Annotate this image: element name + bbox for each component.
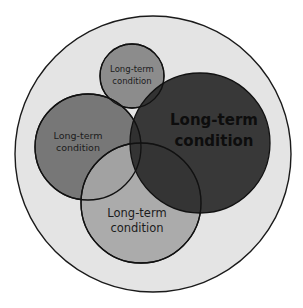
long-term-conditions-diagram: Long-term condition Long-term condition … bbox=[0, 0, 303, 308]
label-left-line1: Long-term bbox=[54, 130, 103, 141]
label-left-line2: condition bbox=[56, 142, 100, 153]
label-bottom-line2: condition bbox=[110, 221, 163, 235]
label-right-large-line2: condition bbox=[174, 132, 253, 150]
label-top-small-line1: Long-term bbox=[110, 64, 154, 74]
label-top-small-line2: condition bbox=[112, 76, 151, 86]
label-bottom-line1: Long-term bbox=[107, 206, 166, 220]
label-right-large-line1: Long-term bbox=[170, 111, 258, 129]
